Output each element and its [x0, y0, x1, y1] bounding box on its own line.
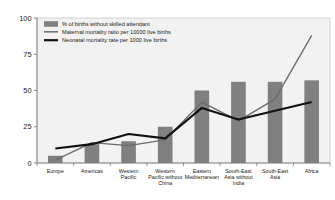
chart-container: 0255075100 EuropeAmericasWesternPacificW…	[0, 0, 335, 200]
legend-label-neonatal: Neonatal mortality rate per 1000 live bi…	[62, 37, 167, 43]
x-axis-ticks	[37, 163, 330, 166]
bar	[268, 82, 283, 163]
bar	[194, 91, 209, 164]
legend-label-bar: % of births without skilled attendant	[62, 21, 150, 27]
y-axis-tick-label: 0	[27, 159, 31, 168]
chart-svg: 0255075100 EuropeAmericasWesternPacificW…	[0, 0, 335, 200]
x-axis-category-label: EasternMediterranean	[185, 168, 219, 180]
y-axis-tick-labels: 0255075100	[19, 14, 31, 168]
y-axis-tick-label: 50	[23, 86, 31, 95]
y-axis-ticks	[34, 18, 37, 163]
bar	[304, 80, 319, 163]
x-axis-category-label: WesternPacific withoutChina	[148, 168, 182, 186]
legend-label-maternal: Maternal mortality ratio per 10000 live …	[62, 29, 171, 35]
y-axis-tick-label: 75	[23, 50, 31, 59]
x-axis-category-label: Europe	[47, 168, 64, 174]
y-axis-tick-label: 100	[19, 14, 31, 23]
x-axis-category-label: Africa	[305, 168, 319, 174]
legend-item-neonatal: Neonatal mortality rate per 1000 live bi…	[44, 37, 167, 43]
x-axis-category-labels: EuropeAmericasWesternPacificWesternPacif…	[47, 168, 319, 186]
x-axis-category-label: South-EastAsia withoutIndia	[224, 168, 253, 186]
x-axis-category-label: WesternPacific	[119, 168, 139, 180]
x-axis-category-label: South-EastAsia	[262, 168, 289, 180]
y-axis-tick-label: 25	[23, 122, 31, 131]
legend-item-maternal: Maternal mortality ratio per 10000 live …	[44, 29, 171, 35]
x-axis-category-label: Americas	[81, 168, 103, 174]
legend-swatch-bar	[44, 21, 58, 27]
bar	[231, 82, 246, 163]
bar	[158, 127, 173, 163]
bar	[85, 144, 100, 163]
